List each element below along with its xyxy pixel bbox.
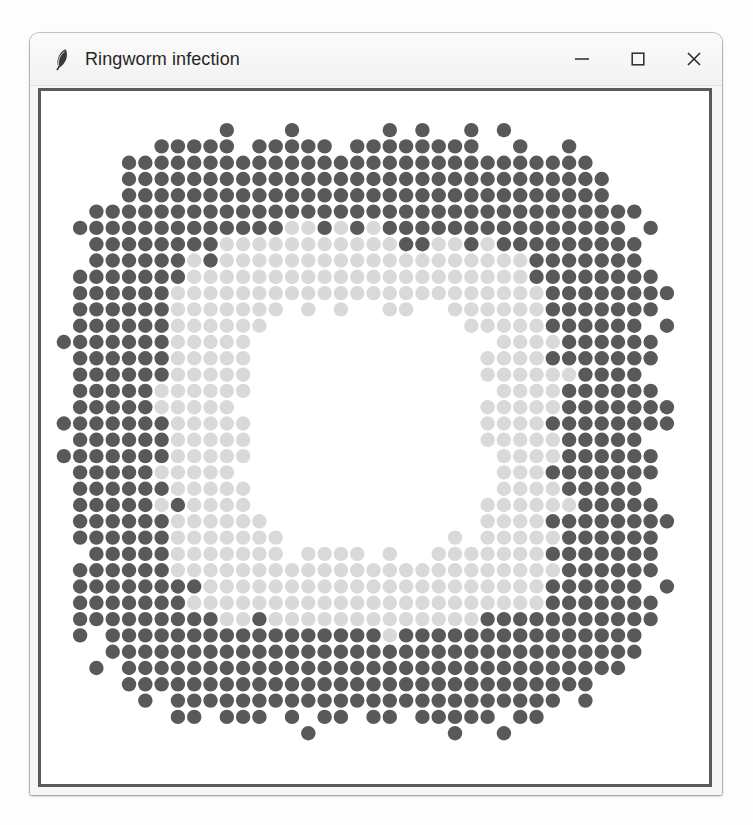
cell-dot xyxy=(317,612,331,626)
cell-dot xyxy=(154,156,168,170)
cell-dot xyxy=(480,172,494,186)
cell-dot xyxy=(415,579,429,593)
cell-dot xyxy=(366,237,380,251)
cell-dot xyxy=(448,270,462,284)
cell-dot xyxy=(611,449,625,463)
cell-dot xyxy=(138,563,152,577)
cell-dot xyxy=(334,661,348,675)
cell-dot xyxy=(529,563,543,577)
cell-dot xyxy=(578,221,592,235)
maximize-button[interactable] xyxy=(610,33,666,85)
cell-dot xyxy=(562,482,576,496)
cell-dot xyxy=(89,221,103,235)
cell-dot xyxy=(236,416,250,430)
cell-dot xyxy=(595,270,609,284)
cell-dot xyxy=(236,302,250,316)
cell-dot xyxy=(415,596,429,610)
cell-dot xyxy=(236,221,250,235)
cell-dot xyxy=(415,661,429,675)
title-bar[interactable]: Ringworm infection xyxy=(30,33,722,86)
cell-dot xyxy=(252,710,266,724)
cell-dot xyxy=(203,384,217,398)
cell-dot xyxy=(285,628,299,642)
cell-dot xyxy=(154,579,168,593)
cell-dot xyxy=(383,221,397,235)
cell-dot xyxy=(154,482,168,496)
cell-dot xyxy=(546,384,560,398)
cell-dot xyxy=(106,253,120,267)
simulation-canvas[interactable] xyxy=(38,88,712,787)
cell-dot xyxy=(464,596,478,610)
cell-dot xyxy=(480,563,494,577)
cell-dot xyxy=(106,221,120,235)
cell-dot xyxy=(154,188,168,202)
cell-dot xyxy=(122,433,136,447)
cell-dot xyxy=(220,319,234,333)
cell-dot xyxy=(203,302,217,316)
cell-dot xyxy=(432,204,446,218)
cell-dot xyxy=(643,596,657,610)
cell-dot xyxy=(480,188,494,202)
cell-dot xyxy=(529,710,543,724)
cell-dot xyxy=(269,596,283,610)
cell-dot xyxy=(154,139,168,153)
cell-dot xyxy=(317,253,331,267)
cell-dot xyxy=(578,237,592,251)
cell-dot xyxy=(154,547,168,561)
cell-dot xyxy=(187,677,201,691)
cell-dot xyxy=(220,465,234,479)
cell-dot xyxy=(627,237,641,251)
cell-dot xyxy=(187,221,201,235)
cell-dot xyxy=(415,123,429,137)
cell-dot xyxy=(334,677,348,691)
cell-dot xyxy=(138,628,152,642)
cell-dot xyxy=(73,302,87,316)
cell-dot xyxy=(73,596,87,610)
cell-dot xyxy=(236,449,250,463)
cell-dot xyxy=(122,563,136,577)
cell-dot xyxy=(611,270,625,284)
close-icon xyxy=(685,50,703,68)
minimize-button[interactable] xyxy=(554,33,610,85)
cell-dot xyxy=(595,237,609,251)
cell-dot xyxy=(529,384,543,398)
cell-dot xyxy=(203,449,217,463)
cell-dot xyxy=(89,433,103,447)
cell-dot xyxy=(89,596,103,610)
cell-dot xyxy=(138,221,152,235)
cell-dot xyxy=(187,204,201,218)
cell-dot xyxy=(317,221,331,235)
cell-dot xyxy=(154,253,168,267)
cell-dot xyxy=(627,433,641,447)
cell-dot xyxy=(73,433,87,447)
cell-dot xyxy=(497,498,511,512)
cell-dot xyxy=(269,221,283,235)
cell-dot xyxy=(203,416,217,430)
cell-dot xyxy=(448,547,462,561)
cell-dot xyxy=(415,253,429,267)
cell-dot xyxy=(203,286,217,300)
close-button[interactable] xyxy=(666,33,722,85)
cell-dot xyxy=(89,351,103,365)
cell-dot xyxy=(138,530,152,544)
cell-dot xyxy=(122,270,136,284)
cell-dot xyxy=(187,612,201,626)
cell-dot xyxy=(562,172,576,186)
cell-dot xyxy=(595,319,609,333)
cell-dot xyxy=(448,596,462,610)
cell-dot xyxy=(383,547,397,561)
cell-dot xyxy=(448,188,462,202)
cell-dot xyxy=(497,172,511,186)
cell-dot xyxy=(285,596,299,610)
cell-dot xyxy=(171,482,185,496)
cell-dot xyxy=(187,449,201,463)
cell-dot xyxy=(595,482,609,496)
cell-dot xyxy=(171,384,185,398)
cell-dot xyxy=(611,579,625,593)
cell-dot xyxy=(399,612,413,626)
cell-dot xyxy=(366,204,380,218)
cell-dot xyxy=(73,579,87,593)
cell-dot xyxy=(285,710,299,724)
cell-dot xyxy=(546,563,560,577)
cell-dot xyxy=(513,547,527,561)
